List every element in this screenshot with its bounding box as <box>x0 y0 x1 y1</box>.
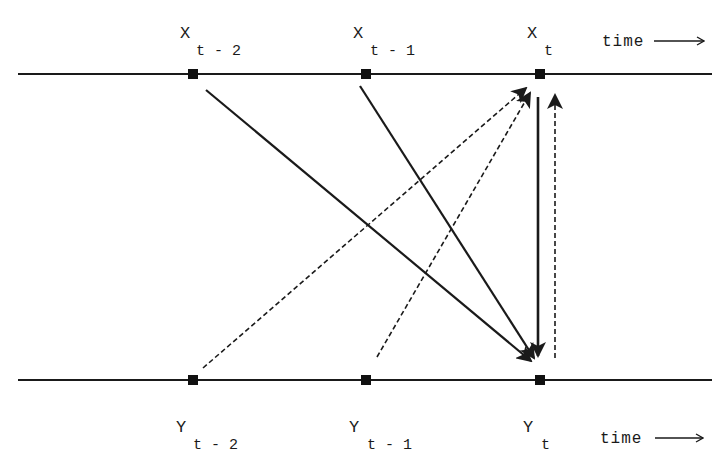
edge-y-t-2-to-x-t <box>203 88 526 368</box>
label-y-t-1-main: Y <box>349 418 359 437</box>
node-y-t <box>535 375 545 385</box>
label-y-t-2-sub: t - 2 <box>193 437 238 454</box>
time-label-bottom: time <box>600 430 642 448</box>
node-x-t-2 <box>188 69 198 79</box>
node-y-t-2 <box>188 375 198 385</box>
label-x-t-1-sub: t - 1 <box>370 43 415 60</box>
label-x-t-2-sub: t - 2 <box>196 43 241 60</box>
label-x-t-1-main: X <box>353 24 363 43</box>
node-y-t-1 <box>361 375 371 385</box>
label-x-t-sub: t <box>544 43 553 60</box>
label-y-t-sub: t <box>541 437 550 454</box>
label-y-t-main: Y <box>523 418 533 437</box>
causal-diagram: X t - 2 X t - 1 X t time Y t - 2 Y t - 1… <box>0 0 726 465</box>
label-x-t-2-main: X <box>180 24 190 43</box>
time-label-top: time <box>602 33 644 51</box>
node-x-t-1 <box>361 69 371 79</box>
label-x-t-main: X <box>527 24 537 43</box>
edge-x-t-1-to-y-t <box>360 86 534 358</box>
label-y-t-2-main: Y <box>176 418 186 437</box>
label-y-t-1-sub: t - 1 <box>367 437 412 454</box>
node-x-t <box>535 69 545 79</box>
